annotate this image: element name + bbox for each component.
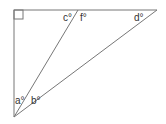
triangle-diagram: c° f° d° a° b°	[0, 0, 166, 124]
angle-label-d: d°	[134, 12, 144, 23]
angle-label-b: b°	[31, 95, 41, 106]
angle-label-c: c°	[63, 12, 72, 23]
angle-label-f: f°	[80, 12, 87, 23]
right-angle-marker	[14, 10, 23, 19]
angle-label-a: a°	[15, 95, 25, 106]
